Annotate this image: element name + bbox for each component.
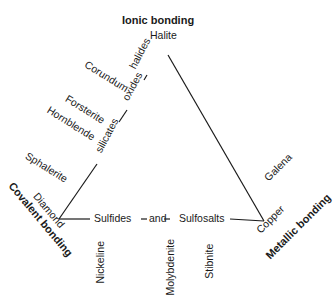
nickeline-label: Nickeline xyxy=(95,241,106,284)
sulfides-label: Sulfides xyxy=(94,213,131,224)
edge-left-tick xyxy=(144,75,147,80)
ionic-bonding-label: Ionic bonding xyxy=(122,15,194,26)
edge-left-mid xyxy=(119,110,127,122)
stibnite-label: Stibnite xyxy=(204,244,215,279)
edge-right xyxy=(168,55,264,221)
sulfosalts-label: Sulfosalts xyxy=(179,213,225,224)
and-label: and xyxy=(149,213,167,224)
molybdenite-label: Molybdenite xyxy=(165,239,176,296)
halite-label: Halite xyxy=(150,30,177,41)
